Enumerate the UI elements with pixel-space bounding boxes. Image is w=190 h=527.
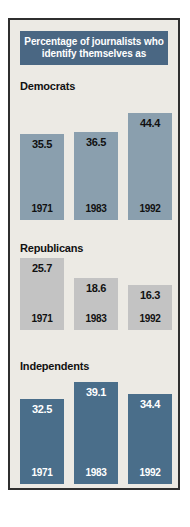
bar-democrats-1983: 36.5 1983 xyxy=(74,132,118,220)
page-title: Percentage of journalists who identify t… xyxy=(20,36,168,60)
bar-group-republicans: Republicans 25.7 1971 18.6 1983 16.3 199… xyxy=(20,242,172,350)
group-label-republicans: Republicans xyxy=(20,242,83,254)
group-label-independents: Independents xyxy=(20,360,89,372)
bar-republicans-1971: 25.7 1971 xyxy=(20,258,64,330)
bar-group-independents: Independents 32.5 1971 39.1 1983 34.4 19… xyxy=(20,360,172,488)
bar-value: 39.1 xyxy=(86,382,106,398)
bar-year: 1971 xyxy=(31,314,52,330)
group-label-democrats: Democrats xyxy=(20,80,75,92)
bar-value: 32.5 xyxy=(32,399,52,415)
bar-democrats-1971: 35.5 1971 xyxy=(20,134,64,220)
bar-value: 18.6 xyxy=(86,278,106,294)
bar-year: 1983 xyxy=(85,468,106,484)
chart-panel: Percentage of journalists who identify t… xyxy=(8,18,180,490)
bar-year: 1971 xyxy=(31,468,52,484)
bar-value: 25.7 xyxy=(32,258,52,274)
bar-year: 1971 xyxy=(31,204,52,220)
chart-figure: Percentage of journalists who identify t… xyxy=(0,0,190,527)
bar-year: 1992 xyxy=(139,204,160,220)
chart-title-banner: Percentage of journalists who identify t… xyxy=(20,31,168,65)
bar-independents-1992: 34.4 1992 xyxy=(128,394,172,484)
bar-group-democrats: Democrats 35.5 1971 36.5 1983 44.4 1992 xyxy=(20,80,172,220)
bar-independents-1971: 32.5 1971 xyxy=(20,399,64,484)
bar-year: 1992 xyxy=(139,468,160,484)
bar-independents-1983: 39.1 1983 xyxy=(74,382,118,484)
bar-democrats-1992: 44.4 1992 xyxy=(128,113,172,220)
bar-year: 1983 xyxy=(85,314,106,330)
bar-year: 1992 xyxy=(139,314,160,330)
bar-republicans-1983: 18.6 1983 xyxy=(74,278,118,330)
bar-republicans-1992: 16.3 1992 xyxy=(128,285,172,330)
bar-value: 44.4 xyxy=(140,113,160,129)
bar-year: 1983 xyxy=(85,204,106,220)
bar-value: 36.5 xyxy=(86,132,106,148)
bar-value: 34.4 xyxy=(140,394,160,410)
bar-value: 35.5 xyxy=(32,134,52,150)
bar-value: 16.3 xyxy=(140,285,160,301)
